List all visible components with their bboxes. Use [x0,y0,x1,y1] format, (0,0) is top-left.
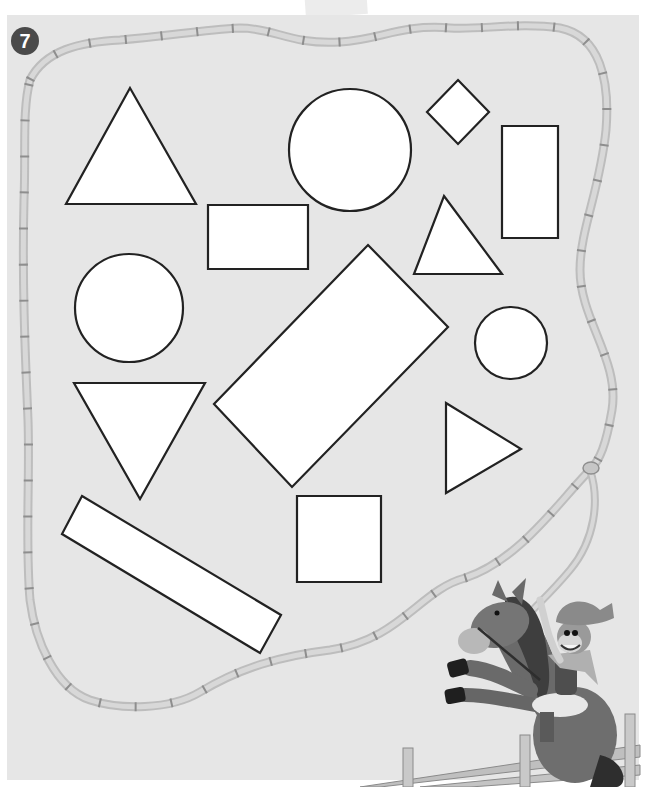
rectangle-long-diagonal-shape [62,496,281,653]
rectangle-rotated-large-shape [214,245,448,487]
circle-small-shape [475,307,547,379]
circle-medium-shape [75,254,183,362]
horse-hoof [446,658,469,679]
horse-ear [492,580,508,602]
horse-hoof [444,686,466,704]
cowboy-hat [556,601,614,625]
triangle-up-large-shape [66,88,196,204]
horse-muzzle [458,628,490,654]
worksheet-page: 7 [0,0,648,787]
triangle-up-small-shape [414,196,502,274]
horse-eye [495,611,500,616]
rider-eye [564,630,570,636]
rectangle-wide-shape [208,205,308,269]
triangle-right-shape [446,403,521,493]
worksheet-art [0,0,648,787]
square-shape [297,496,381,582]
exercise-number-badge: 7 [11,27,39,55]
rider-eye [572,630,578,636]
circle-large-shape [289,89,411,211]
diamond-small-shape [427,80,489,144]
horse-front-leg [465,695,535,705]
rope-knot [583,462,599,474]
saddle [540,712,554,742]
rectangle-tall-shape [502,126,558,238]
triangle-down-shape [74,383,205,499]
